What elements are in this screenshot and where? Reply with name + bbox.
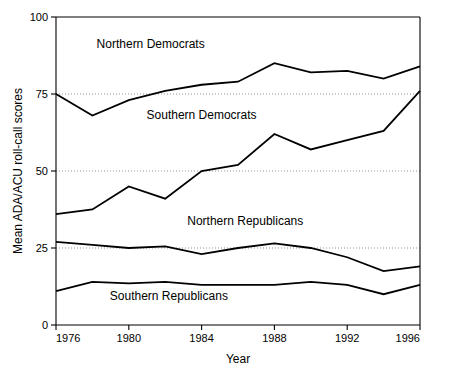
x-tick-label-1984: 1984 — [189, 332, 213, 344]
y-tick-label-100: 100 — [30, 11, 48, 23]
x-tick-label-1996: 1996 — [396, 332, 420, 344]
series-label-northern-democrats: Northern Democrats — [97, 37, 205, 51]
series-label-southern-republicans: Southern Republicans — [110, 289, 228, 303]
y-tick-label-50: 50 — [36, 165, 48, 177]
y-tick-label-0: 0 — [42, 319, 48, 331]
x-tick-label-1976: 1976 — [56, 332, 80, 344]
x-tick-label-1980: 1980 — [117, 332, 141, 344]
series-label-northern-republicans: Northern Republicans — [187, 214, 303, 228]
chart-container: 0255075100 197619801984198819921996 Nort… — [0, 0, 449, 373]
y-tick-label-75: 75 — [36, 88, 48, 100]
chart-background — [0, 0, 449, 373]
x-tick-label-1988: 1988 — [262, 332, 286, 344]
y-axis-title: Mean ADA/ACU roll-call scores — [11, 88, 25, 254]
line-chart: 0255075100 197619801984198819921996 Nort… — [0, 0, 449, 373]
x-tick-label-1992: 1992 — [335, 332, 359, 344]
x-axis-title: Year — [226, 352, 250, 366]
y-tick-label-25: 25 — [36, 242, 48, 254]
series-label-southern-democrats: Southern Democrats — [147, 108, 257, 122]
